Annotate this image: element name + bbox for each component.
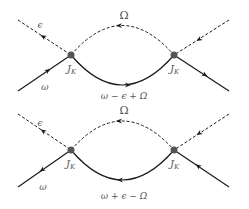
fermion-line-in	[174, 150, 229, 187]
vertex-left	[68, 52, 75, 59]
label-incoming: ω	[39, 182, 47, 192]
feynman-diagrams: Ω ϵ ω JK JK ω − ϵ + Ω Ω ϵ ω JK JK ω	[0, 0, 249, 209]
label-incoming: ω	[41, 82, 49, 92]
fermion-line-out	[174, 55, 229, 91]
label-internal: ω + ϵ − Ω	[101, 191, 148, 201]
label-boson: Ω	[119, 9, 128, 22]
label-vertex-right: JK	[168, 63, 180, 76]
boson-line-out	[18, 114, 71, 150]
boson-line-in	[174, 20, 229, 55]
label-outgoing: ϵ	[37, 118, 42, 128]
boson-arc	[71, 26, 174, 56]
vertex-left	[68, 147, 75, 154]
vertex-right	[171, 147, 178, 154]
label-vertex-left: JK	[64, 158, 76, 171]
fermion-arc	[71, 150, 174, 180]
diagram-bottom: Ω ϵ ω JK JK ω + ϵ − Ω	[18, 104, 229, 201]
label-boson: Ω	[119, 104, 128, 117]
diagram-top: Ω ϵ ω JK JK ω − ϵ + Ω	[18, 9, 229, 101]
vertex-right	[171, 52, 178, 59]
fermion-arc	[71, 55, 174, 85]
boson-line-in	[174, 114, 229, 150]
label-vertex-right: JK	[168, 158, 180, 171]
boson-line-out	[18, 20, 71, 55]
label-internal: ω − ϵ + Ω	[101, 91, 148, 101]
label-vertex-left: JK	[65, 63, 77, 76]
label-outgoing: ϵ	[37, 20, 42, 30]
boson-arc	[71, 121, 174, 150]
